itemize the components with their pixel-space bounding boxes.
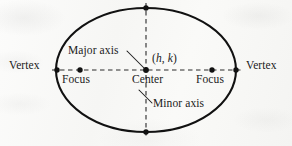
major-axis-leader-line — [127, 51, 144, 68]
focus-right-label: Focus — [196, 74, 224, 86]
ellipse-figure: Vertex Vertex Focus Focus Major axis Min… — [0, 0, 292, 146]
focus-left-point — [77, 67, 82, 72]
vertex-left-label: Vertex — [9, 60, 40, 72]
vertex-right-point — [233, 67, 238, 72]
center-coordinates-label: (h, k) — [152, 53, 177, 65]
coord-close-paren: ) — [173, 52, 177, 64]
major-axis-label: Major axis — [68, 45, 119, 57]
focus-left-label: Focus — [62, 74, 90, 86]
minor-axis-bottom-point — [143, 129, 148, 134]
center-label: Center — [132, 74, 163, 86]
vertex-right-label: Vertex — [246, 60, 277, 72]
vertex-left-point — [54, 67, 59, 72]
minor-axis-label: Minor axis — [153, 98, 204, 110]
focus-right-point — [209, 67, 214, 72]
minor-axis-top-point — [143, 5, 148, 10]
